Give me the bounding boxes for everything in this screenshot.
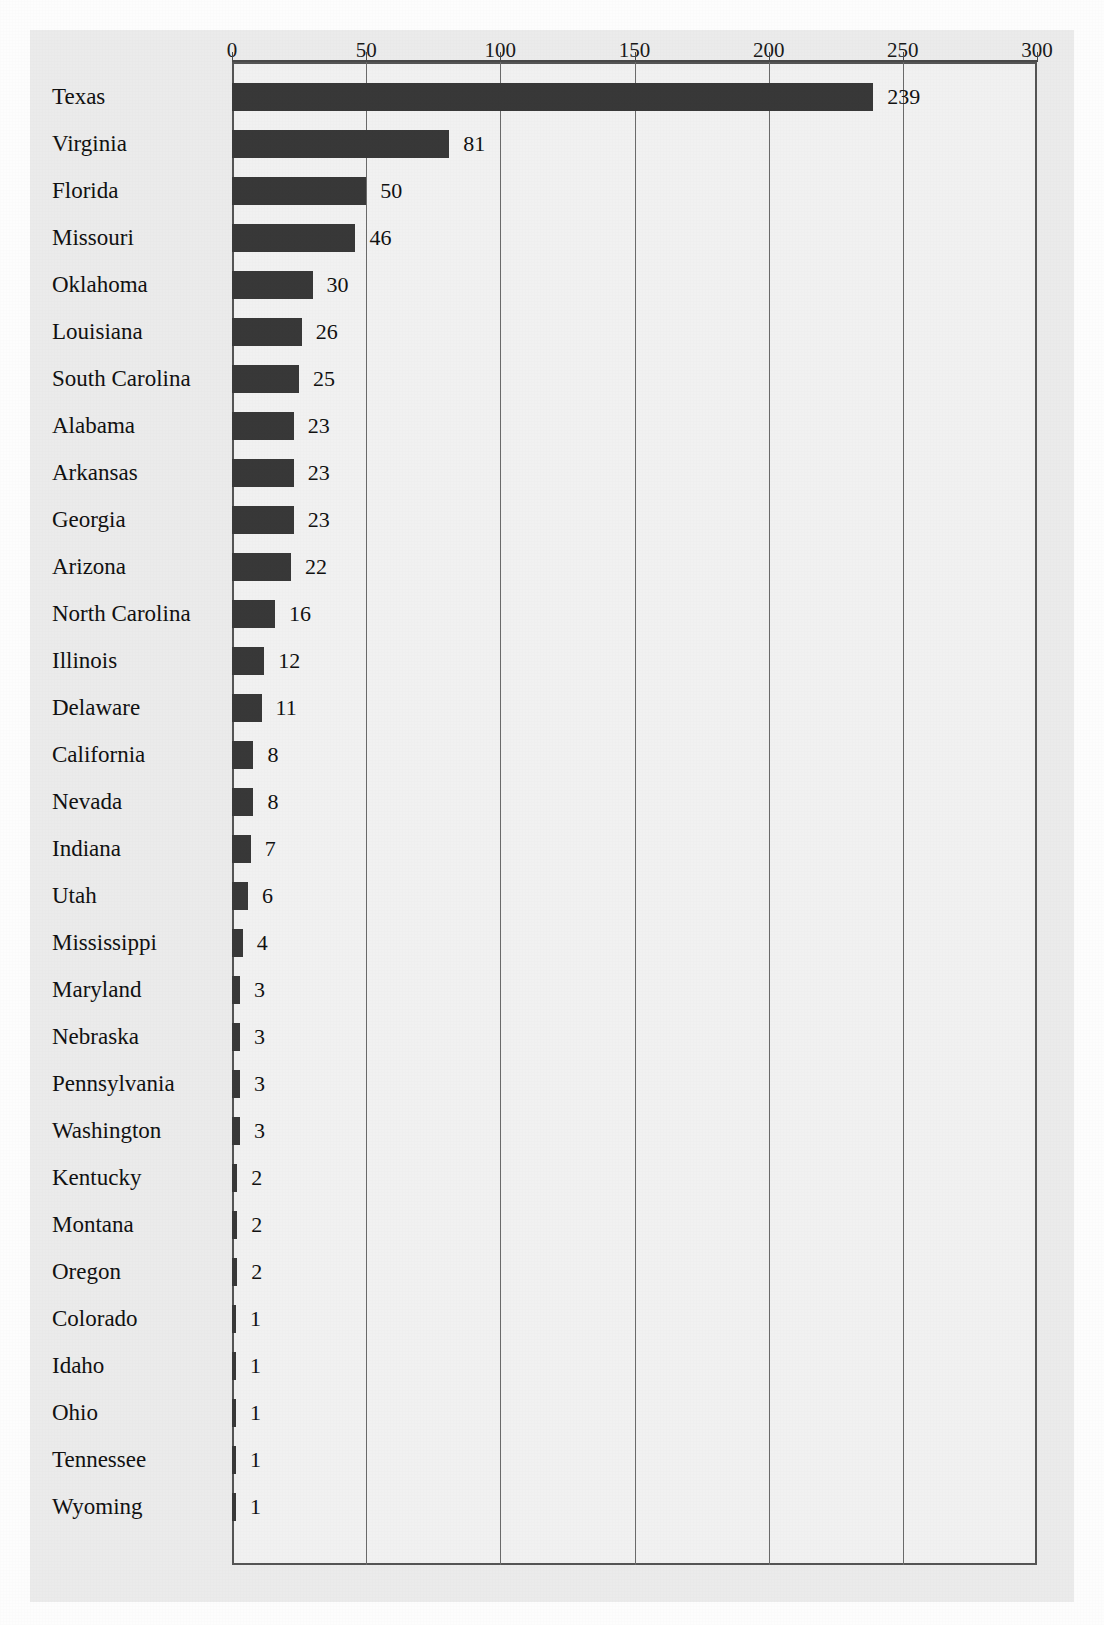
bar-value-label: 25 — [313, 366, 335, 392]
x-tick-mark — [232, 52, 233, 62]
bar-value-label: 1 — [250, 1494, 261, 1520]
bar-value-label: 16 — [289, 601, 311, 627]
gridline — [769, 62, 770, 1565]
category-label: Oregon — [52, 1259, 121, 1285]
category-label: California — [52, 742, 145, 768]
category-label: Virginia — [52, 131, 127, 157]
bar — [232, 412, 294, 440]
category-label: Mississippi — [52, 930, 157, 956]
bar-value-label: 1 — [250, 1306, 261, 1332]
category-label: Nevada — [52, 789, 122, 815]
bar-value-label: 2 — [251, 1165, 262, 1191]
category-label: Colorado — [52, 1306, 138, 1332]
bar-value-label: 8 — [267, 789, 278, 815]
x-tick-mark — [769, 52, 770, 62]
category-label: Arkansas — [52, 460, 138, 486]
bar-value-label: 7 — [265, 836, 276, 862]
category-label: Oklahoma — [52, 272, 148, 298]
bar-value-label: 23 — [308, 507, 330, 533]
bar — [232, 741, 253, 769]
bar — [232, 1164, 237, 1192]
x-tick-mark — [1037, 52, 1038, 62]
bar — [232, 83, 873, 111]
bar — [232, 788, 253, 816]
x-tick-mark — [635, 52, 636, 62]
category-label: Tennessee — [52, 1447, 146, 1473]
bar-value-label: 1 — [250, 1447, 261, 1473]
gridline — [903, 62, 904, 1565]
bar — [232, 600, 275, 628]
bar-value-label: 8 — [267, 742, 278, 768]
category-label: Louisiana — [52, 319, 143, 345]
bar-value-label: 3 — [254, 977, 265, 1003]
bar-value-label: 23 — [308, 460, 330, 486]
bar — [232, 929, 243, 957]
category-label: Kentucky — [52, 1165, 141, 1191]
bar — [232, 835, 251, 863]
bar — [232, 1211, 237, 1239]
bar-value-label: 11 — [276, 695, 297, 721]
bar — [232, 130, 449, 158]
gridline — [500, 62, 501, 1565]
category-label: Nebraska — [52, 1024, 139, 1050]
bar-value-label: 3 — [254, 1071, 265, 1097]
bar — [232, 1117, 240, 1145]
gridline — [366, 62, 367, 1565]
bar-value-label: 6 — [262, 883, 273, 909]
horizontal-bar-chart: 050100150200250300 Texas239Virginia81Flo… — [0, 0, 1104, 1625]
bar-value-label: 3 — [254, 1118, 265, 1144]
bar — [232, 318, 302, 346]
category-label: Maryland — [52, 977, 141, 1003]
bar — [232, 271, 313, 299]
category-label: North Carolina — [52, 601, 191, 627]
category-label: Washington — [52, 1118, 161, 1144]
bar — [232, 365, 299, 393]
category-label: Indiana — [52, 836, 121, 862]
bar-value-label: 23 — [308, 413, 330, 439]
category-label: Georgia — [52, 507, 126, 533]
bar — [232, 1399, 236, 1427]
bar — [232, 694, 262, 722]
bar-value-label: 12 — [278, 648, 300, 674]
x-tick-mark — [500, 52, 501, 62]
bar — [232, 1023, 240, 1051]
category-label: Alabama — [52, 413, 135, 439]
bar-value-label: 81 — [463, 131, 485, 157]
bar — [232, 1352, 236, 1380]
category-label: Illinois — [52, 648, 117, 674]
bar-value-label: 1 — [250, 1400, 261, 1426]
bar — [232, 1446, 236, 1474]
bar-value-label: 30 — [327, 272, 349, 298]
bar — [232, 1493, 236, 1521]
gridline — [635, 62, 636, 1565]
category-label: Pennsylvania — [52, 1071, 175, 1097]
bar-value-label: 46 — [369, 225, 391, 251]
category-label: Delaware — [52, 695, 140, 721]
bar-value-label: 4 — [257, 930, 268, 956]
category-label: Florida — [52, 178, 118, 204]
bar-value-label: 1 — [250, 1353, 261, 1379]
bar — [232, 459, 294, 487]
bar — [232, 1258, 237, 1286]
bar — [232, 976, 240, 1004]
category-label: Arizona — [52, 554, 126, 580]
bar — [232, 177, 366, 205]
x-tick-mark — [366, 52, 367, 62]
bar-value-label: 2 — [251, 1212, 262, 1238]
bar — [232, 506, 294, 534]
bar-value-label: 239 — [887, 84, 920, 110]
bar-value-label: 26 — [316, 319, 338, 345]
category-label: Ohio — [52, 1400, 98, 1426]
bar-value-label: 2 — [251, 1259, 262, 1285]
bar — [232, 647, 264, 675]
category-label: Montana — [52, 1212, 134, 1238]
x-tick-mark — [903, 52, 904, 62]
bar — [232, 882, 248, 910]
bar — [232, 1305, 236, 1333]
bar-value-label: 22 — [305, 554, 327, 580]
bar — [232, 224, 355, 252]
bar-value-label: 3 — [254, 1024, 265, 1050]
category-label: Missouri — [52, 225, 134, 251]
category-label: Utah — [52, 883, 97, 909]
bar — [232, 1070, 240, 1098]
